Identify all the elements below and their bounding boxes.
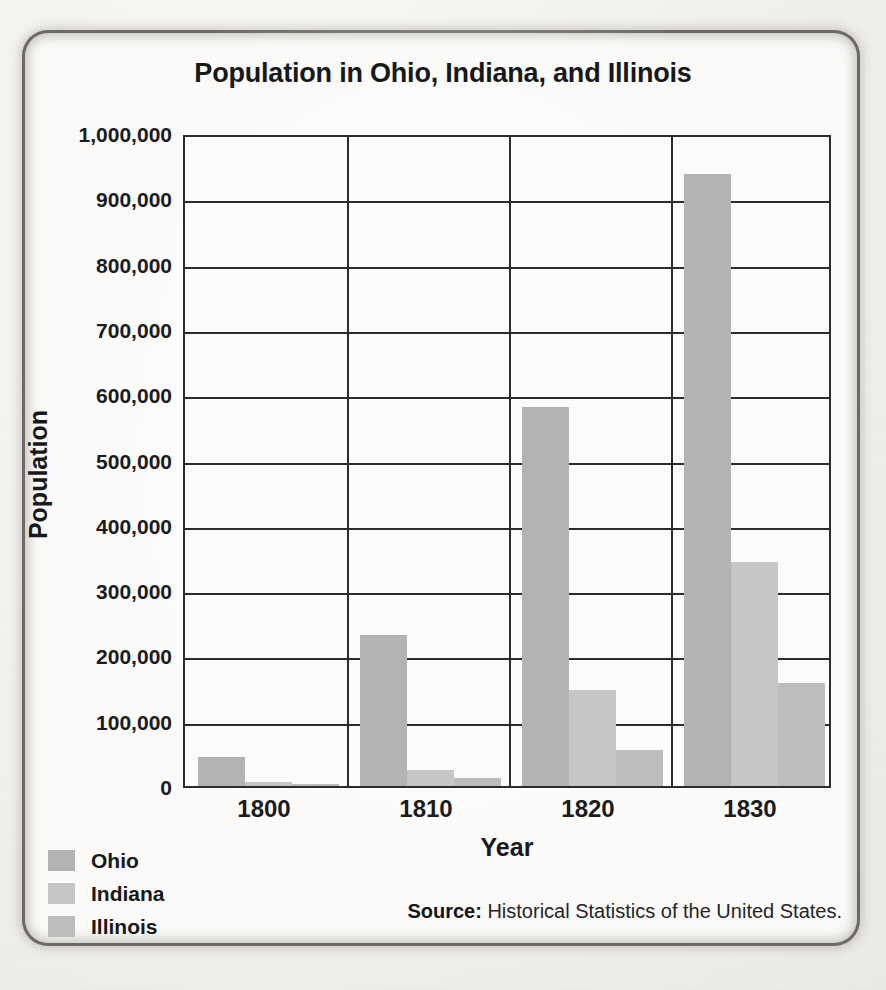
y-tick-label: 0 [12,776,172,800]
y-tick-label: 100,000 [12,711,172,735]
bar[interactable] [292,784,339,786]
bar-group [185,137,347,786]
legend-item-ohio[interactable]: Ohio [48,846,165,875]
chart-page: Population in Ohio, Indiana, and Illinoi… [0,0,886,990]
legend-item-illinois[interactable]: Illinois [48,912,165,941]
x-tick-label: 1820 [561,795,614,823]
y-axis-ticks: 0100,000200,000300,000400,000500,000600,… [0,135,172,788]
legend-item-indiana[interactable]: Indiana [48,879,165,908]
bar[interactable] [522,407,569,786]
bar[interactable] [616,750,663,786]
x-axis-label: Year [183,833,831,862]
y-tick-label: 800,000 [12,254,172,278]
legend-swatch-icon [48,850,75,871]
bar[interactable] [198,757,245,786]
bar-group [509,137,671,786]
chart-title: Population in Ohio, Indiana, and Illinoi… [0,58,886,89]
source-text: Historical Statistics of the United Stat… [487,900,842,922]
bar[interactable] [569,690,616,786]
bar[interactable] [407,770,454,786]
y-tick-label: 700,000 [12,319,172,343]
legend-label: Ohio [91,849,139,873]
bar-group [671,137,833,786]
y-tick-label: 900,000 [12,188,172,212]
bar-group [347,137,509,786]
legend-label: Illinois [91,915,158,939]
chart-legend: OhioIndianaIllinois [48,846,165,945]
source-note: Source: Historical Statistics of the Uni… [407,900,842,923]
legend-swatch-icon [48,916,75,937]
bar[interactable] [454,778,501,786]
bar[interactable] [731,562,778,786]
bar[interactable] [360,635,407,786]
plot-area [183,135,831,788]
y-tick-label: 500,000 [12,450,172,474]
x-tick-label: 1830 [723,795,776,823]
source-prefix: Source: [407,900,481,922]
y-tick-label: 600,000 [12,384,172,408]
bar[interactable] [245,782,292,786]
x-tick-label: 1800 [237,795,290,823]
y-tick-label: 400,000 [12,515,172,539]
y-tick-label: 200,000 [12,645,172,669]
bar[interactable] [778,683,825,786]
legend-swatch-icon [48,883,75,904]
legend-label: Indiana [91,882,165,906]
y-tick-label: 1,000,000 [12,123,172,147]
x-tick-label: 1810 [399,795,452,823]
bar[interactable] [684,174,731,787]
y-tick-label: 300,000 [12,580,172,604]
